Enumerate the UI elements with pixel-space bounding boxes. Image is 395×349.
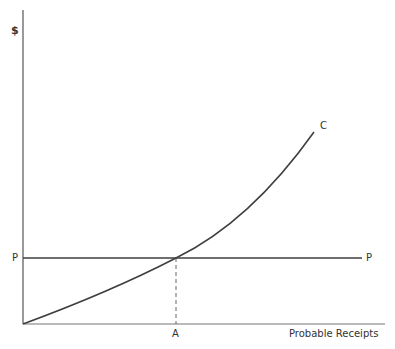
- price-label-left: P: [12, 253, 18, 263]
- price-label-right: P: [366, 253, 372, 263]
- curve-c-label: C: [320, 121, 327, 131]
- cost-price-diagram: [0, 0, 395, 349]
- x-axis-label: Probable Receipts: [289, 329, 378, 339]
- y-axis-label: $: [11, 25, 19, 36]
- intersection-label-a: A: [172, 329, 179, 339]
- curve-c: [23, 132, 314, 324]
